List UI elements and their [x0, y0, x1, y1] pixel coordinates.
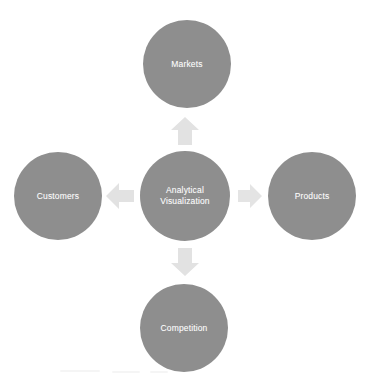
node-analytical-visualization-label: Analytical Visualization — [154, 185, 216, 207]
node-products[interactable]: Products — [268, 152, 356, 240]
arrow-up-icon — [170, 116, 200, 146]
node-customers-label: Customers — [31, 191, 85, 202]
node-analytical-visualization[interactable]: Analytical Visualization — [140, 151, 230, 241]
node-markets-label: Markets — [165, 59, 208, 70]
arrow-left-icon — [105, 182, 135, 210]
analytical-visualization-diagram: Markets Customers Products Competition A… — [0, 0, 369, 380]
node-competition-label: Competition — [154, 323, 213, 334]
node-customers[interactable]: Customers — [14, 152, 102, 240]
node-products-label: Products — [289, 191, 336, 202]
arrow-down-icon — [170, 247, 200, 277]
scan-artifact — [150, 371, 168, 373]
node-competition[interactable]: Competition — [140, 284, 228, 372]
node-markets[interactable]: Markets — [143, 20, 231, 108]
scan-artifact — [112, 371, 140, 373]
arrow-right-icon — [237, 183, 263, 209]
scan-artifact — [60, 370, 100, 372]
